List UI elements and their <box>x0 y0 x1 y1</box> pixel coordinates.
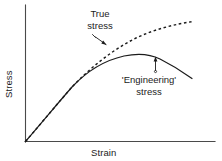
x-axis-label: Strain <box>91 147 116 158</box>
engineering-stress-leader-tail-dot <box>154 70 156 72</box>
annotation-engineering-stress: 'Engineering' stress <box>108 74 190 97</box>
y-axis-label: Stress <box>1 32 12 60</box>
annotation-true-stress-line2: stress <box>74 20 126 32</box>
true-stress-leader-tail <box>93 35 96 38</box>
annotation-engineering-stress-line2: stress <box>108 86 190 98</box>
annotation-true-stress-line1: True <box>74 8 126 20</box>
stress-strain-figure: Stress Strain True stress 'Engineering' … <box>0 0 222 161</box>
annotation-engineering-stress-line1: 'Engineering' <box>108 74 190 86</box>
annotation-true-stress: True stress <box>74 8 126 31</box>
y-axis-label-text: Stress <box>3 70 14 98</box>
engineering-stress-curve <box>26 54 193 141</box>
true-stress-arrowhead-icon <box>101 40 106 45</box>
